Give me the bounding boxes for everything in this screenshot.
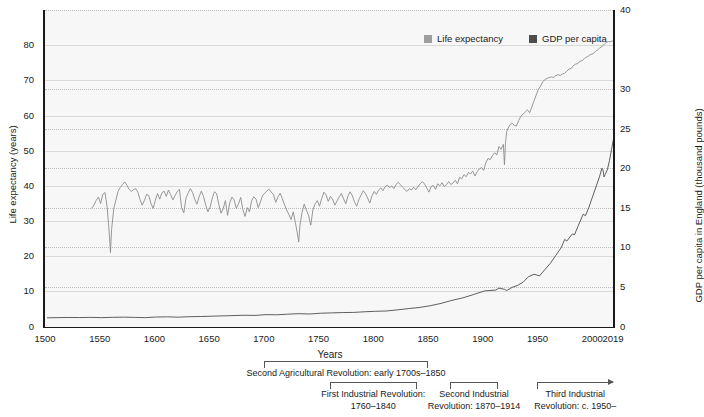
annotation-bracket-third-industrial-revolution [537,382,613,389]
plot-area [43,10,615,328]
x-tick-1950: 1950 [527,334,548,344]
annotation-bracket-line [537,382,613,383]
gridline-left-0 [45,327,613,328]
x-tick-1700: 1700 [253,334,274,344]
y-tick-left-30: 30 [23,216,34,226]
annotation-label-second-agricultural-revolution: Second Agricultural Revolution: early 17… [226,368,466,380]
x-axis-title: Years [0,349,660,360]
x-tick-1600: 1600 [144,334,165,344]
annotation-bracket-cap-left [537,382,538,389]
y-tick-right-25: 25 [620,124,631,134]
y-tick-left-60: 60 [23,111,34,121]
annotation-bracket-line [450,382,498,383]
annotation-bracket-cap-left [264,361,265,368]
series-line-gdp-per-capita [47,84,615,317]
y-tick-right-15: 15 [620,203,631,213]
x-tick-1800: 1800 [363,334,384,344]
series-layer [45,10,613,327]
y-tick-left-40: 40 [23,181,34,191]
y-tick-left-20: 20 [23,251,34,261]
series-line-life-expectancy [91,41,614,253]
annotation-bracket-first-industrial-revolution [330,382,418,389]
y-tick-left-10: 10 [23,286,34,296]
annotation-bracket-cap-right [497,382,498,389]
annotation-label-third-industrial-revolution: Third Industrial Revolution: c. 1950– [455,389,695,412]
annotation-bracket-cap-right [416,382,417,389]
y-tick-left-80: 80 [23,40,34,50]
legend-swatch-life-expectancy [424,35,432,43]
x-tick-1500: 1500 [34,334,55,344]
legend-label-gdp-per-capita: GDP per capita [542,33,607,44]
y-axis-right-title: GDP per capita in England (thousand poun… [693,91,704,321]
annotation-bracket-cap-left [450,382,451,389]
y-tick-right-0: 0 [620,322,625,332]
x-tick-2019: 2019 [602,334,623,344]
y-tick-right-10: 10 [620,242,631,252]
y-tick-right-40: 40 [620,5,631,15]
y-tick-right-30: 30 [620,84,631,94]
x-tick-1900: 1900 [472,334,493,344]
x-tick-1650: 1650 [199,334,220,344]
annotation-bracket-line [264,361,428,362]
x-tick-1850: 1850 [417,334,438,344]
gridline-right-0 [45,327,613,328]
annotation-bracket-cap-right [427,361,428,368]
annotation-arrow-icon [608,379,614,385]
y-tick-right-5: 5 [620,282,625,292]
annotation-bracket-second-agricultural-revolution [264,361,428,368]
y-tick-left-70: 70 [23,75,34,85]
annotation-bracket-second-industrial-revolution [450,382,498,389]
legend-label-life-expectancy: Life expectancy [437,33,503,44]
legend-swatch-gdp-per-capita [529,35,537,43]
annotation-bracket-cap-left [330,382,331,389]
y-tick-left-50: 50 [23,146,34,156]
y-axis-left-title: Life expectancy (years) [7,110,18,240]
annotation-bracket-line [330,382,418,383]
legend-item-gdp-per-capita[interactable]: GDP per capita [529,33,607,44]
x-tick-1750: 1750 [308,334,329,344]
legend: Life expectancy GDP per capita [424,33,607,44]
x-tick-2000: 2000 [582,334,603,344]
y-tick-right-20: 20 [620,163,631,173]
x-tick-1550: 1550 [89,334,110,344]
y-tick-left-0: 0 [29,322,34,332]
legend-item-life-expectancy[interactable]: Life expectancy [424,33,503,44]
